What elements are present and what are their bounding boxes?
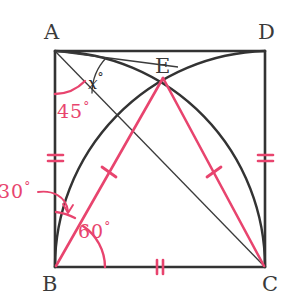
angle-arc-30-at-b [56,212,75,218]
degree-symbol-30: ° [24,180,31,194]
angle-label-45-value: 45 [57,100,83,122]
angle-label-x-value: x [88,73,98,93]
vertex-label-b: B [42,274,57,295]
angle-label-45: 45° [57,101,90,121]
degree-symbol-45: ° [83,100,90,114]
degree-symbol-x: ° [98,71,104,85]
angle-label-30: 30° [0,181,31,201]
vertex-label-e: E [155,56,170,77]
vertex-label-a: A [44,22,59,43]
vertex-label-d: D [258,22,275,43]
angle-label-60-value: 60 [78,220,104,242]
tick-marks [48,155,273,274]
degree-symbol-60: ° [104,220,111,234]
angle-arc-45-at-a [55,81,85,94]
angle-label-30-value: 30 [0,180,24,202]
angle-label-x: x° [88,72,104,92]
angle-label-60: 60° [78,221,111,241]
geometry-figure [0,0,284,304]
vertex-label-c: C [262,274,278,295]
